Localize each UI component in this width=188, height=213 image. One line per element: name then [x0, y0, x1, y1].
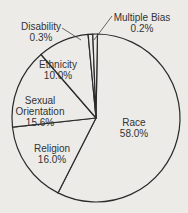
label-sexual-orientation: Sexual Orientation 15.6%	[16, 95, 65, 128]
label-sexual-orientation-name-line2: Orientation	[16, 106, 65, 117]
label-multiple-bias: Multiple Bias 0.2%	[114, 12, 171, 34]
label-sexual-orientation-value: 15.6%	[16, 117, 65, 128]
label-race-name: Race	[120, 117, 148, 128]
label-race-value: 58.0%	[120, 128, 148, 139]
label-religion: Religion 16.0%	[34, 143, 70, 165]
label-sexual-orientation-name-line1: Sexual	[16, 95, 65, 106]
label-disability-value: 0.3%	[21, 32, 61, 43]
label-race: Race 58.0%	[120, 117, 148, 139]
label-ethnicity-name: Ethnicity	[39, 59, 77, 70]
label-multiple-bias-value: 0.2%	[114, 23, 171, 34]
label-disability: Disability 0.3%	[21, 21, 61, 43]
label-disability-name: Disability	[21, 21, 61, 32]
label-religion-value: 16.0%	[34, 154, 70, 165]
label-religion-name: Religion	[34, 143, 70, 154]
label-ethnicity-value: 10.0%	[39, 70, 77, 81]
label-ethnicity: Ethnicity 10.0%	[39, 59, 77, 81]
label-multiple-bias-name: Multiple Bias	[114, 12, 171, 23]
pie-chart: Race 58.0% Religion 16.0% Sexual Orienta…	[0, 0, 188, 213]
